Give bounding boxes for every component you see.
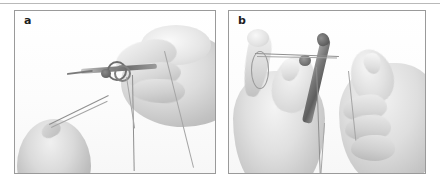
figure-panel-a: a (14, 10, 216, 174)
panel-a-photograph (15, 11, 215, 173)
panel-b-label: b (238, 15, 246, 26)
left-hand-index-fingertip (247, 29, 269, 47)
suture-loop-inner (114, 65, 131, 82)
panel-b-photograph (229, 11, 425, 173)
panel-a-label: a (24, 15, 31, 26)
suture-thread-finger-loop (251, 51, 269, 89)
right-hand-ring-finger (351, 135, 395, 161)
figure-root: a b (0, 0, 440, 183)
suture-thread-diagonal-secondary (51, 101, 108, 128)
figure-panel-b: b (228, 10, 426, 174)
suture-knot (101, 69, 111, 78)
top-horizontal-rule (0, 3, 440, 4)
suture-thread-diagonal (49, 95, 109, 125)
